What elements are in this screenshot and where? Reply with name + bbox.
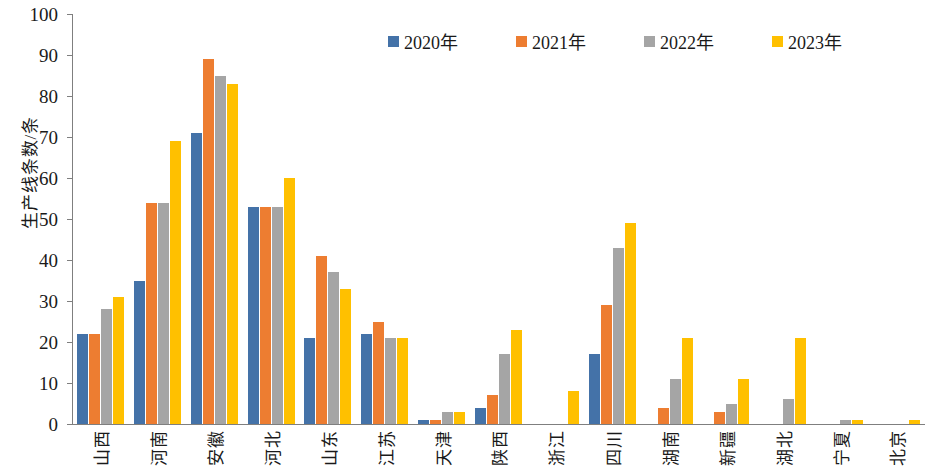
bar xyxy=(909,420,920,424)
x-axis-label: 江苏 xyxy=(372,431,397,466)
bar xyxy=(146,203,157,424)
y-tick-label: 0 xyxy=(49,415,59,434)
x-axis-label: 山东 xyxy=(315,431,340,466)
bar xyxy=(499,354,510,424)
x-label-cell: 新疆 xyxy=(697,426,754,474)
bar-group xyxy=(243,14,300,424)
bar xyxy=(682,338,693,424)
bar xyxy=(601,305,612,424)
legend-swatch-icon xyxy=(644,36,655,47)
x-label-cell: 河南 xyxy=(129,426,186,474)
bar-group xyxy=(811,14,868,424)
y-tick-label: 60 xyxy=(39,169,58,188)
y-tick-label: 70 xyxy=(39,128,58,147)
bar xyxy=(852,420,863,424)
x-label-cell: 河北 xyxy=(243,426,300,474)
bar xyxy=(625,223,636,424)
bar xyxy=(77,334,88,424)
bar xyxy=(795,338,806,424)
bar xyxy=(726,404,737,425)
bar xyxy=(385,338,396,424)
bar-group xyxy=(413,14,470,424)
bar-group xyxy=(584,14,641,424)
y-tick-label: 30 xyxy=(39,292,58,311)
x-axis-label: 新疆 xyxy=(713,431,738,466)
bar xyxy=(511,330,522,424)
x-axis-label: 河南 xyxy=(145,431,170,466)
x-label-cell: 宁夏 xyxy=(811,426,868,474)
bar xyxy=(783,399,794,424)
legend-label: 2022年 xyxy=(660,28,714,54)
legend-label: 2023年 xyxy=(788,28,842,54)
legend-swatch-icon xyxy=(388,36,399,47)
bar xyxy=(170,141,181,424)
chart-legend: 2020年2021年2022年2023年 xyxy=(388,28,842,54)
x-label-cell: 山东 xyxy=(299,426,356,474)
bar xyxy=(568,391,579,424)
bar xyxy=(670,379,681,424)
x-label-cell: 山西 xyxy=(72,426,129,474)
x-label-cell: 安徽 xyxy=(186,426,243,474)
bar-chart: 生产线条数/条 1009080706050403020100 山西河南安徽河北山… xyxy=(0,0,930,474)
bar-group xyxy=(868,14,925,424)
bar xyxy=(215,76,226,425)
bar xyxy=(589,354,600,424)
bar xyxy=(714,412,725,424)
x-axis-label: 湖北 xyxy=(770,431,795,466)
bar-group xyxy=(186,14,243,424)
y-tick-label: 10 xyxy=(39,374,58,393)
bar xyxy=(340,289,351,424)
y-axis-title: 生产线条数/条 xyxy=(16,83,41,263)
legend-label: 2020年 xyxy=(404,28,458,54)
bar xyxy=(260,207,271,424)
plot-area: 1009080706050403020100 xyxy=(72,14,925,424)
bar xyxy=(304,338,315,424)
y-tick-label: 100 xyxy=(30,5,59,24)
bar xyxy=(272,207,283,424)
bar-group xyxy=(299,14,356,424)
x-axis-label: 北京 xyxy=(884,431,909,466)
y-tick-label: 50 xyxy=(39,210,58,229)
bar xyxy=(113,297,124,424)
x-label-cell: 湖南 xyxy=(641,426,698,474)
legend-label: 2021年 xyxy=(532,28,586,54)
bar xyxy=(284,178,295,424)
bar-group xyxy=(129,14,186,424)
bar-group xyxy=(527,14,584,424)
bar-group xyxy=(641,14,698,424)
bar xyxy=(475,408,486,424)
bar xyxy=(442,412,453,424)
bar-group xyxy=(356,14,413,424)
bar xyxy=(328,272,339,424)
bar xyxy=(430,420,441,424)
x-axis-label: 河北 xyxy=(259,431,284,466)
x-label-cell: 浙江 xyxy=(527,426,584,474)
bar xyxy=(316,256,327,424)
bar xyxy=(158,203,169,424)
y-tick-label: 80 xyxy=(39,87,58,106)
legend-swatch-icon xyxy=(772,36,783,47)
bar xyxy=(89,334,100,424)
x-axis-label: 宁夏 xyxy=(827,431,852,466)
bar xyxy=(454,412,465,424)
x-axis-label: 浙江 xyxy=(543,431,568,466)
x-axis-labels: 山西河南安徽河北山东江苏天津陕西浙江四川湖南新疆湖北宁夏北京 xyxy=(72,426,925,474)
legend-item: 2020年 xyxy=(388,28,458,54)
bar xyxy=(203,59,214,424)
x-axis-line xyxy=(72,424,925,425)
y-tick: 0 xyxy=(67,424,72,425)
bar xyxy=(397,338,408,424)
legend-item: 2022年 xyxy=(644,28,714,54)
bar xyxy=(227,84,238,424)
x-axis-label: 安徽 xyxy=(202,431,227,466)
x-axis-label: 陕西 xyxy=(486,431,511,466)
legend-item: 2021年 xyxy=(516,28,586,54)
y-tick-label: 90 xyxy=(39,46,58,65)
bar xyxy=(613,248,624,424)
bar xyxy=(658,408,669,424)
bar-group xyxy=(72,14,129,424)
bar xyxy=(418,420,429,424)
x-label-cell: 湖北 xyxy=(754,426,811,474)
bar xyxy=(248,207,259,424)
x-label-cell: 北京 xyxy=(868,426,925,474)
